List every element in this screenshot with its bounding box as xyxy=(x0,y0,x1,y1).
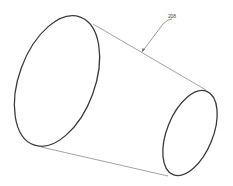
reference-numeral: 208 xyxy=(168,14,176,19)
small-end-ellipse xyxy=(152,83,228,184)
bottom-edge-line xyxy=(41,147,168,176)
top-edge-line xyxy=(93,24,206,90)
frustum-drawing xyxy=(0,0,233,186)
leader-line xyxy=(142,19,172,52)
